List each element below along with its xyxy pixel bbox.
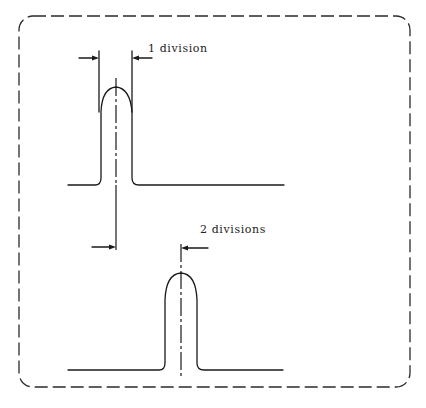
top-pulse-label: 1 division	[148, 42, 208, 55]
pulse-diagram: 1 division 2 divisions	[0, 0, 426, 408]
bottom-pulse-waveform	[68, 273, 283, 370]
bottom-pulse-group: 2 divisions	[68, 223, 283, 378]
top-pulse-waveform	[68, 87, 284, 185]
top-right-arrowhead-icon	[132, 56, 139, 61]
dashed-frame	[19, 16, 410, 387]
reference-arrowhead-icon	[109, 245, 116, 250]
top-pulse-group: 1 division	[68, 42, 284, 250]
bottom-pulse-label: 2 divisions	[200, 223, 266, 236]
bottom-arrowhead-icon	[181, 246, 188, 251]
top-left-arrowhead-icon	[92, 56, 99, 61]
